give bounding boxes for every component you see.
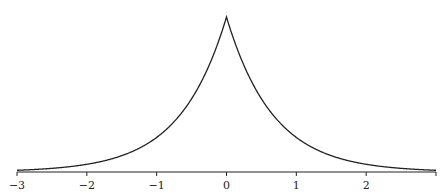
x-tick-label: 0 (223, 179, 230, 192)
x-tick-label: −1 (149, 179, 165, 192)
x-tick-label: 2 (363, 179, 370, 192)
x-tick-label: −3 (9, 179, 25, 192)
x-tick-label: 1 (293, 179, 300, 192)
chart-canvas: −3−2−1012 (0, 0, 448, 195)
x-axis-ticks: −3−2−1012 (9, 172, 436, 192)
x-tick-label: −2 (79, 179, 95, 192)
density-curve (17, 17, 436, 170)
